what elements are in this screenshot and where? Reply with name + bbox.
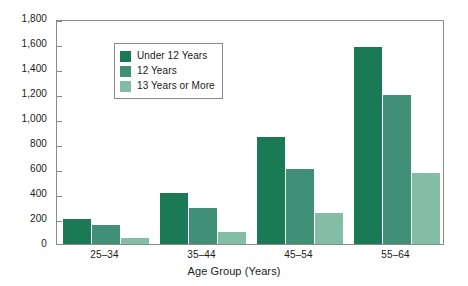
bar	[354, 47, 382, 245]
legend-label: Under 12 Years	[137, 50, 207, 62]
bar	[412, 173, 440, 244]
y-axis-tick-mark	[57, 71, 62, 72]
y-axis-tick-label: 1,200	[21, 88, 47, 100]
bar	[383, 95, 411, 244]
y-axis-tick-label: 800	[30, 138, 47, 150]
x-axis-tick-label: 35–44	[156, 248, 248, 262]
bar-chart: 02004006008001,0001,2001,4001,6001,800 U…	[0, 0, 468, 286]
y-axis-tick-mark	[57, 21, 62, 22]
bar	[92, 225, 120, 244]
y-axis-tick-label: 1,600	[21, 38, 47, 50]
y-axis-tick-mark	[57, 221, 62, 222]
legend-item: Under 12 Years	[120, 49, 215, 63]
bar	[257, 137, 285, 244]
y-axis-tick-mark	[57, 146, 62, 147]
bar	[286, 169, 314, 244]
bar	[189, 208, 217, 244]
y-axis-tick-mark	[57, 121, 62, 122]
y-axis-tick-mark	[57, 171, 62, 172]
x-axis-title: Age Group (Years)	[0, 264, 468, 278]
legend-label: 12 Years	[137, 65, 177, 77]
x-axis-tick-label: 45–54	[253, 248, 345, 262]
bar	[63, 219, 91, 244]
y-axis-tick-label: 0	[41, 238, 47, 250]
y-axis-tick-mark	[57, 196, 62, 197]
y-axis-tick-label: 600	[30, 163, 47, 175]
y-axis-tick-mark	[57, 46, 62, 47]
bar	[315, 213, 343, 244]
y-axis: 02004006008001,0001,2001,4001,6001,800	[0, 20, 56, 245]
bar-group	[254, 21, 346, 244]
legend-swatch-icon	[120, 81, 131, 92]
y-axis-tick-label: 1,400	[21, 63, 47, 75]
y-axis-tick-label: 1,800	[21, 13, 47, 25]
y-axis-tick-mark	[57, 96, 62, 97]
legend-item: 12 Years	[120, 64, 215, 78]
bar	[160, 193, 188, 244]
y-axis-tick-label: 200	[30, 213, 47, 225]
bar	[121, 238, 149, 244]
bar-group	[351, 21, 443, 244]
x-axis-tick-label: 25–34	[59, 248, 151, 262]
bar	[218, 232, 246, 245]
legend: Under 12 Years 12 Years 13 Years or More	[114, 43, 223, 99]
legend-swatch-icon	[120, 51, 131, 62]
plot-area: Under 12 Years 12 Years 13 Years or More	[56, 20, 444, 245]
x-axis-tick-label: 55–64	[350, 248, 442, 262]
x-axis: 25–3435–4445–5455–64	[56, 248, 444, 264]
y-axis-tick-label: 400	[30, 188, 47, 200]
y-axis-tick-label: 1,000	[21, 113, 47, 125]
legend-label: 13 Years or More	[137, 80, 215, 92]
legend-item: 13 Years or More	[120, 79, 215, 93]
legend-swatch-icon	[120, 66, 131, 77]
